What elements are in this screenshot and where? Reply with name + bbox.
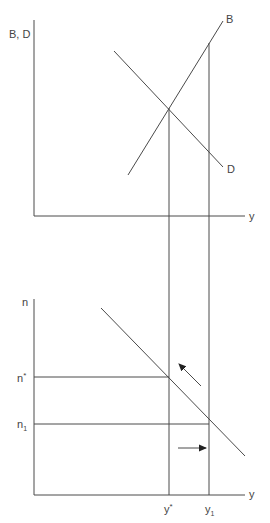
diagram-canvas: B, D y B D n y n* n1 y* y1 bbox=[0, 0, 270, 523]
arrow-up-left-icon bbox=[179, 364, 201, 386]
bottom-y-axis-label: n bbox=[22, 296, 28, 308]
y-star-label: y* bbox=[164, 502, 173, 515]
y1-label: y1 bbox=[205, 503, 215, 517]
bottom-curve bbox=[101, 308, 245, 456]
top-y-axis-label: B, D bbox=[9, 28, 30, 40]
curve-b-label: B bbox=[226, 13, 233, 25]
curve-d-label: D bbox=[227, 163, 235, 175]
n1-label: n1 bbox=[17, 418, 27, 432]
bottom-x-axis-label: y bbox=[249, 488, 255, 500]
n-star-label: n* bbox=[17, 371, 26, 384]
top-panel: B, D y B D bbox=[9, 13, 255, 222]
bottom-panel: n y n* n1 y* y1 bbox=[17, 296, 255, 517]
top-x-axis-label: y bbox=[249, 210, 255, 222]
